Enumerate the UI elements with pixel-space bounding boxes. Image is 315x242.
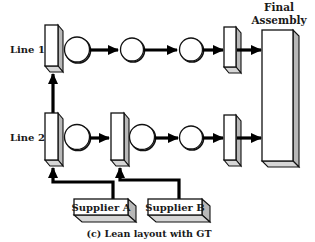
supplier-b-feed-arrow (120, 168, 179, 199)
supplier-b-label: Supplier B (145, 202, 205, 213)
line-2-machine-3 (180, 126, 204, 150)
line-1-cell-box (45, 25, 63, 72)
final-assembly-label-line1: Final (264, 1, 294, 13)
supplier-b-box: Supplier B (145, 199, 210, 222)
line-1 (45, 25, 261, 73)
supplier-a-feed-arrow (53, 168, 113, 199)
supplier-a-box: Supplier A (72, 199, 136, 222)
line-2-cell-box-1 (45, 113, 63, 166)
line-2-cell-box-2 (111, 113, 129, 166)
final-assembly-label-line2: Assembly (250, 14, 307, 26)
line-2-buffer-box (224, 115, 241, 166)
line-2-machine-1 (65, 125, 91, 151)
supplier-a-label: Supplier A (72, 202, 131, 213)
figure-caption: (c) Lean layout with GT (87, 228, 212, 239)
lean-layout-diagram: Final Assembly Line 1 Line 2 (0, 0, 315, 242)
line-2-label: Line 2 (10, 132, 45, 143)
line-1-machine-2 (121, 38, 145, 62)
line-1-label: Line 1 (10, 44, 45, 55)
line-1-machine-1 (65, 37, 91, 63)
final-assembly-box (262, 30, 299, 167)
line-2-machine-2 (130, 125, 156, 151)
line-2 (45, 113, 261, 166)
line-1-machine-3 (180, 38, 204, 62)
